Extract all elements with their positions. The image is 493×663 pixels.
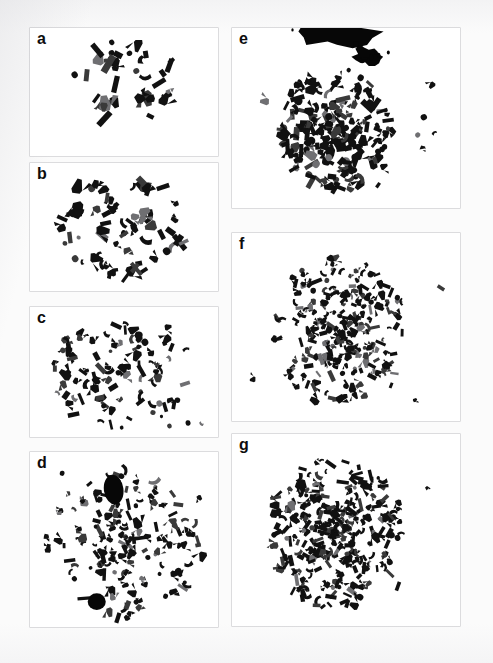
panel-label-b: b	[37, 166, 47, 182]
chromosome-spread-f	[232, 233, 460, 421]
panel-g: g	[232, 434, 460, 626]
panel-label-d: d	[37, 455, 47, 471]
panel-e: e	[232, 28, 460, 208]
panel-c: c	[30, 307, 218, 437]
chromosome-spread-g	[232, 434, 460, 626]
panel-b: b	[30, 163, 218, 291]
panel-label-c: c	[37, 310, 46, 326]
panel-d: d	[30, 452, 218, 627]
chromosome-spread-c	[30, 307, 218, 437]
figure-plate: a b c d e f g	[0, 0, 493, 663]
chromosome-spread-e	[232, 28, 460, 208]
panel-f: f	[232, 233, 460, 421]
chromosome-spread-b	[30, 163, 218, 291]
panel-label-f: f	[239, 236, 244, 252]
panel-label-e: e	[239, 31, 248, 47]
chromosome-spread-a	[30, 28, 218, 156]
panel-label-g: g	[239, 437, 249, 453]
panel-label-a: a	[37, 31, 46, 47]
chromosome-spread-d	[30, 452, 218, 627]
panel-a: a	[30, 28, 218, 156]
